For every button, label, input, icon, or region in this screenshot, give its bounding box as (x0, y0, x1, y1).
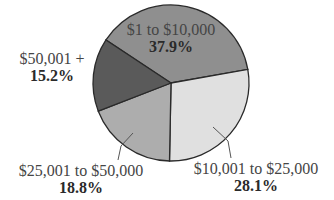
slice-label-10001-25000: $10,001 to $25,000 28.1% (180, 160, 332, 194)
slice-label-name: $50,001 + (12, 50, 92, 67)
slice-label-percent: 28.1% (180, 177, 332, 194)
slice-label-1-10000: $1 to $10,000 37.9% (112, 21, 230, 55)
slice-label-percent: 15.2% (12, 67, 92, 84)
slice-10001-to-25000 (170, 69, 249, 161)
slice-label-percent: 18.8% (6, 179, 156, 196)
slice-label-name: $25,001 to $50,000 (6, 162, 156, 179)
slice-label-percent: 37.9% (112, 38, 230, 55)
slice-label-name: $10,001 to $25,000 (180, 160, 332, 177)
slice-label-25001-50000: $25,001 to $50,000 18.8% (6, 162, 156, 196)
slice-label-50001-plus: $50,001 + 15.2% (12, 50, 92, 84)
slice-label-name: $1 to $10,000 (112, 21, 230, 38)
